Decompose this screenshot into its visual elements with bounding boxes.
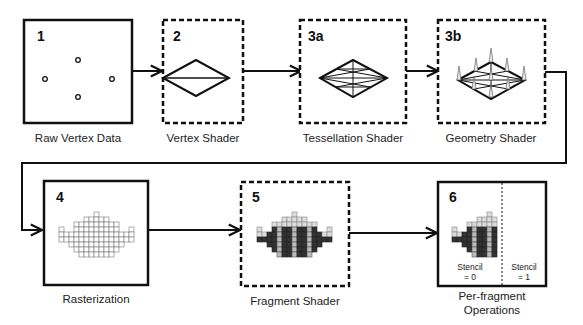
stage-label: Rasterization	[62, 293, 129, 305]
stage-1-raw-vertex-data: 1 Raw Vertex Data	[24, 20, 132, 144]
stage-number: 5	[252, 189, 260, 205]
pipeline-diagram: 1 Raw Vertex Data 2 Vertex Shader 3a	[0, 0, 583, 325]
stage-label: Fragment Shader	[250, 295, 340, 307]
stage-3b-geometry-shader: 3b Geometry Shader	[438, 20, 545, 144]
stage-label: Tessellation Shader	[303, 132, 404, 144]
stage-number: 3a	[308, 28, 324, 44]
stage-number: 6	[449, 189, 457, 205]
stage-4-rasterization: 4 Rasterization	[44, 181, 148, 305]
stage-6-per-fragment-operations: 6 Stencil = 0 Stencil = 1 Per-fragment O…	[438, 182, 546, 316]
stencil-right-value: = 1	[518, 272, 530, 282]
stencil-right-label: Stencil	[511, 262, 537, 272]
stage-number: 4	[56, 189, 64, 205]
stage-label-line1: Per-fragment	[458, 290, 526, 302]
stage-number: 1	[37, 28, 45, 44]
stage-label: Geometry Shader	[446, 132, 537, 144]
stage-3a-tessellation-shader: 3a Tessellation Shader	[300, 20, 406, 144]
stencil-left-label: Stencil	[457, 262, 483, 272]
stage-number: 3b	[445, 28, 461, 44]
stage-label-line2: Operations	[464, 304, 521, 316]
stage-label: Vertex Shader	[167, 132, 240, 144]
stage-5-fragment-shader: 5 Fragment Shader	[241, 182, 349, 307]
stage-number: 2	[173, 28, 181, 44]
stencil-left-value: = 0	[464, 272, 476, 282]
stage-label: Raw Vertex Data	[35, 132, 122, 144]
stage-2-vertex-shader: 2 Vertex Shader	[163, 20, 243, 144]
